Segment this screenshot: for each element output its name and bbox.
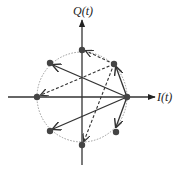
point-315deg bbox=[113, 129, 119, 135]
point-0deg bbox=[124, 94, 130, 100]
point-90deg bbox=[79, 47, 85, 53]
constellation-diagram: Q(t) I(t) bbox=[0, 0, 179, 172]
dashed-arrow-45-to-90 bbox=[86, 51, 114, 64]
point-270deg bbox=[79, 142, 85, 148]
q-axis-label: Q(t) bbox=[73, 4, 93, 18]
solid-arrow-0-to-135 bbox=[53, 65, 127, 97]
solid-arrow-0-to-225 bbox=[53, 97, 127, 129]
point-45deg bbox=[111, 61, 117, 67]
dashed-arrow-45-to-270 bbox=[84, 64, 114, 141]
point-225deg bbox=[47, 128, 53, 134]
dashed-arrow-45-to-180 bbox=[41, 64, 114, 95]
point-180deg bbox=[34, 94, 40, 100]
i-axis-label: I(t) bbox=[156, 90, 172, 104]
point-135deg bbox=[47, 60, 53, 66]
